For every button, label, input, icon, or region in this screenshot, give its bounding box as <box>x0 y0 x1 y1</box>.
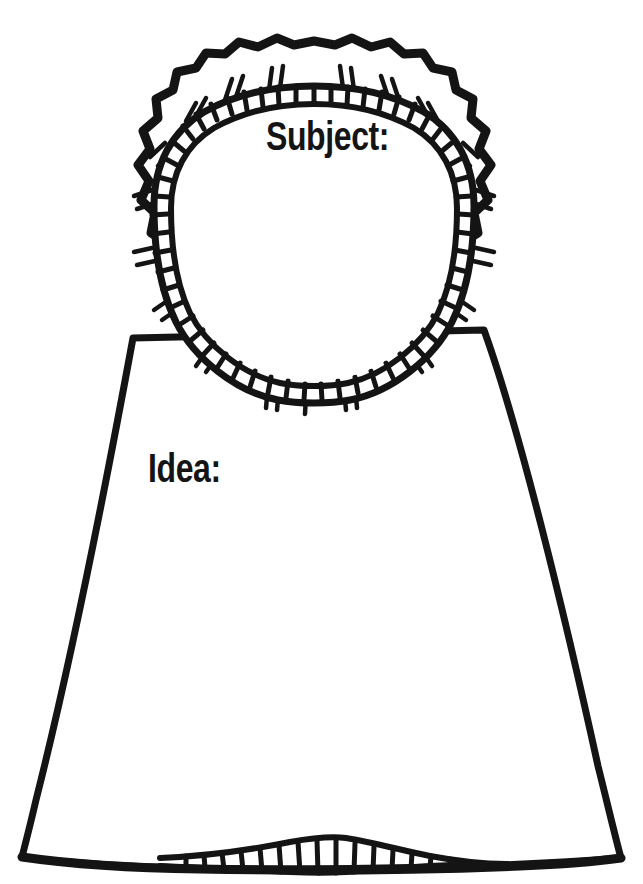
subject-field-label: Subject: <box>266 116 389 156</box>
worksheet-page: Subject: Idea: <box>0 0 643 884</box>
idea-field-label: Idea: <box>148 448 221 488</box>
